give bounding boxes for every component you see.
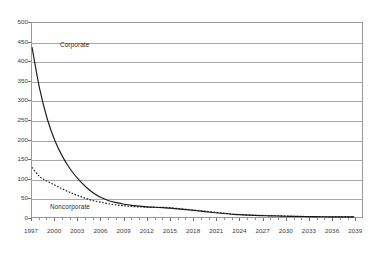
x-axis-minor-tick [301, 218, 302, 220]
y-axis-tick-label: 450 [0, 39, 28, 45]
x-axis-minor-tick [247, 218, 248, 220]
x-axis-minor-tick [178, 218, 179, 220]
y-axis-tick-label: 250 [0, 117, 28, 123]
x-axis-minor-tick [39, 218, 40, 220]
x-axis-tick-mark [54, 218, 55, 221]
x-axis-tick-mark [147, 218, 148, 221]
x-axis-minor-tick [294, 218, 295, 220]
chart-container: 050100150200250300350400450500 199720002… [0, 0, 376, 254]
y-axis-tick-label: 0 [0, 215, 28, 221]
x-axis-minor-tick [201, 218, 202, 220]
series-line-corporate [32, 47, 354, 217]
x-axis-tick-mark [332, 218, 333, 221]
y-axis-tick-label: 300 [0, 97, 28, 103]
y-axis-tick-label: 350 [0, 78, 28, 84]
plot-area [31, 22, 363, 218]
x-axis-tick-mark [77, 218, 78, 221]
x-axis-minor-tick [139, 218, 140, 220]
series-label-noncorporate: Noncorporate [50, 204, 90, 210]
x-axis-minor-tick [317, 218, 318, 220]
x-axis-minor-tick [340, 218, 341, 220]
x-axis-tick-mark [286, 218, 287, 221]
x-axis-minor-tick [185, 218, 186, 220]
x-axis-tick-mark [216, 218, 217, 221]
x-axis-tick-mark [31, 218, 32, 221]
series-curves [32, 23, 362, 217]
x-axis-minor-tick [116, 218, 117, 220]
x-axis-tick-mark [170, 218, 171, 221]
y-axis-tick-label: 50 [0, 195, 28, 201]
x-axis-minor-tick [93, 218, 94, 220]
x-axis-tick-mark [100, 218, 101, 221]
x-axis-minor-tick [155, 218, 156, 220]
y-axis-tick-label: 400 [0, 58, 28, 64]
y-axis-tick-label: 200 [0, 137, 28, 143]
x-axis-tick-mark [193, 218, 194, 221]
x-axis-minor-tick [224, 218, 225, 220]
x-axis-minor-tick [278, 218, 279, 220]
x-axis-minor-tick [232, 218, 233, 220]
x-axis-minor-tick [324, 218, 325, 220]
x-axis-tick-mark [239, 218, 240, 221]
x-axis-minor-tick [255, 218, 256, 220]
x-axis-minor-tick [270, 218, 271, 220]
x-axis-minor-tick [348, 218, 349, 220]
y-axis-tick-label: 100 [0, 176, 28, 182]
y-axis-tick-label: 500 [0, 19, 28, 25]
x-axis-minor-tick [131, 218, 132, 220]
x-axis-minor-tick [70, 218, 71, 220]
x-axis-minor-tick [209, 218, 210, 220]
x-axis-minor-tick [162, 218, 163, 220]
series-label-corporate: Corporate [60, 42, 89, 48]
x-axis-minor-tick [46, 218, 47, 220]
x-axis-tick-mark [124, 218, 125, 221]
x-axis-minor-tick [62, 218, 63, 220]
x-axis-minor-tick [85, 218, 86, 220]
y-axis-tick-label: 150 [0, 156, 28, 162]
x-axis-minor-tick [108, 218, 109, 220]
x-axis-tick-mark [263, 218, 264, 221]
x-axis-tick-mark [355, 218, 356, 221]
x-axis-tick-mark [309, 218, 310, 221]
x-axis-tick-label: 2039 [340, 228, 370, 234]
